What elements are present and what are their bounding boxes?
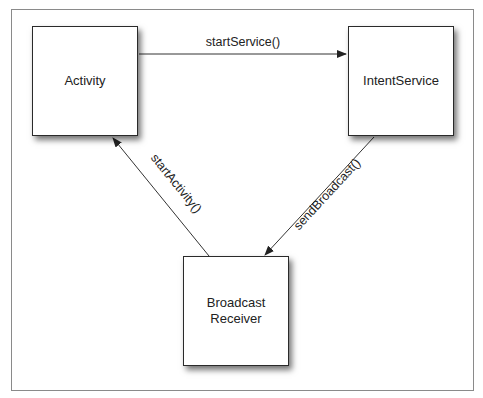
- edge-label-send-broadcast: sendBroadcast(): [291, 156, 363, 233]
- edge-send-broadcast: sendBroadcast(): [265, 137, 374, 255]
- edge-start-activity: startActivity(): [113, 138, 209, 256]
- node-label-intentservice: IntentService: [363, 73, 439, 89]
- node-broadcast-receiver: Broadcast Receiver: [183, 256, 289, 366]
- edge-label-start-activity: startActivity(): [148, 151, 204, 216]
- edge-start-service: startService(): [139, 35, 346, 54]
- node-intentservice: IntentService: [348, 26, 454, 136]
- node-label-activity: Activity: [64, 73, 105, 89]
- edge-label-start-service: startService(): [206, 35, 280, 49]
- node-activity: Activity: [32, 26, 138, 136]
- node-label-broadcast-receiver: Broadcast Receiver: [207, 295, 266, 327]
